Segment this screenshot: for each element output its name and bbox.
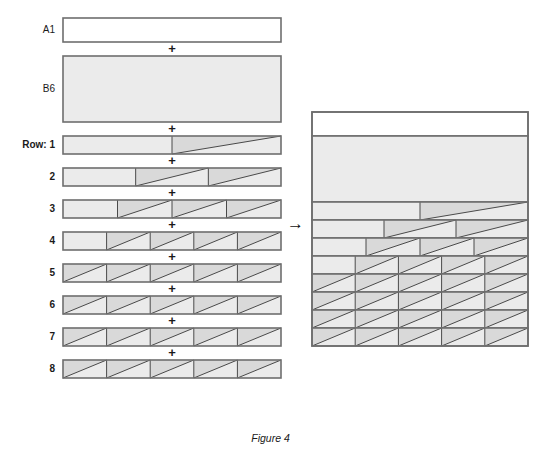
plus-operator-0: + bbox=[164, 42, 180, 55]
composite-band-4 bbox=[312, 238, 528, 256]
bar-7 bbox=[63, 328, 281, 346]
plus-operator-2: + bbox=[164, 154, 180, 167]
bar-B6 bbox=[63, 56, 281, 122]
bar-A1 bbox=[63, 18, 281, 42]
composite-band-6 bbox=[312, 274, 528, 292]
composite-band-7 bbox=[312, 292, 528, 310]
bar-label-3: 3 bbox=[49, 204, 55, 214]
figure-caption: Figure 4 bbox=[0, 432, 541, 444]
composite-band-3 bbox=[312, 220, 528, 238]
bar-label-8: 8 bbox=[49, 364, 55, 374]
plus-operator-6: + bbox=[164, 282, 180, 295]
bar-label-5: 5 bbox=[49, 268, 55, 278]
diagram-canvas bbox=[0, 0, 541, 458]
bar-label-Row1: Row: 1 bbox=[22, 140, 55, 150]
plus-operator-7: + bbox=[164, 314, 180, 327]
plus-operator-5: + bbox=[164, 250, 180, 263]
bar-3 bbox=[63, 200, 281, 218]
plus-operator-8: + bbox=[164, 346, 180, 359]
bar-6 bbox=[63, 296, 281, 314]
bar-2 bbox=[63, 168, 281, 186]
plus-operator-1: + bbox=[164, 122, 180, 135]
bar-label-2: 2 bbox=[49, 172, 55, 182]
bar-label-4: 4 bbox=[49, 236, 55, 246]
transform-arrow-icon: → bbox=[287, 215, 304, 232]
bar-label-A1: A1 bbox=[43, 25, 55, 35]
composite-band-1 bbox=[312, 136, 528, 202]
figure-4-diagram: A1+B6+Row: 1+2+3+4+5+6+7+8→ Figure 4 bbox=[0, 0, 541, 458]
bar-5 bbox=[63, 264, 281, 282]
composite-band-9 bbox=[312, 328, 528, 346]
composite-band-5 bbox=[312, 256, 528, 274]
composite-band-8 bbox=[312, 310, 528, 328]
composite-band-2 bbox=[312, 202, 528, 220]
bar-label-B6: B6 bbox=[43, 84, 55, 94]
bar-label-7: 7 bbox=[49, 332, 55, 342]
composite-block bbox=[312, 112, 528, 346]
plus-operator-3: + bbox=[164, 186, 180, 199]
bar-label-6: 6 bbox=[49, 300, 55, 310]
plus-operator-4: + bbox=[164, 218, 180, 231]
bar-8 bbox=[63, 360, 281, 378]
bar-4 bbox=[63, 232, 281, 250]
bar-Row1 bbox=[63, 136, 281, 154]
composite-band-0 bbox=[312, 112, 528, 136]
